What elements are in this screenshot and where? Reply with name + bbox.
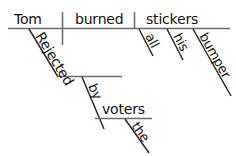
- word-bumper: bumper: [196, 30, 234, 81]
- word-by: by: [85, 81, 105, 102]
- word-his: his: [170, 30, 192, 53]
- word-burned: burned: [75, 11, 123, 27]
- word-tom: Tom: [13, 11, 42, 27]
- word-stickers: stickers: [146, 11, 198, 27]
- word-all: all: [142, 30, 162, 50]
- word-voters: voters: [102, 101, 145, 117]
- diagram-canvas: Tom burned stickers all his bumper Rejec…: [0, 0, 236, 156]
- sentence-diagram: Tom burned stickers all his bumper Rejec…: [0, 0, 236, 156]
- word-the: the: [129, 119, 153, 145]
- word-rejected: Rejected: [32, 29, 77, 88]
